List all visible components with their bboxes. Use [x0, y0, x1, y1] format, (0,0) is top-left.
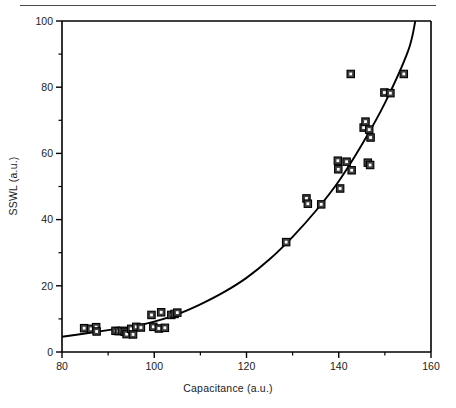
- marker-inner-square: [125, 333, 128, 336]
- marker-inner-square: [150, 314, 153, 317]
- data-point: [365, 126, 372, 133]
- marker-inner-square: [320, 203, 323, 206]
- data-point: [347, 70, 354, 77]
- data-point: [161, 324, 168, 331]
- x-tick-label: 80: [56, 360, 68, 372]
- marker-inner-square: [383, 91, 386, 94]
- marker-inner-square: [389, 92, 392, 95]
- marker-inner-square: [337, 168, 340, 171]
- data-point: [93, 328, 100, 335]
- marker-inner-square: [362, 126, 365, 129]
- data-point: [400, 70, 407, 77]
- data-point: [282, 238, 289, 245]
- marker-inner-square: [83, 327, 86, 330]
- marker-inner-square: [285, 241, 288, 244]
- y-tick-label: 20: [41, 280, 53, 292]
- data-point: [387, 89, 394, 96]
- data-point: [174, 309, 181, 316]
- data-point: [129, 331, 136, 338]
- marker-inner-square: [350, 169, 353, 172]
- data-point: [304, 200, 311, 207]
- y-tick-label: 80: [41, 81, 53, 93]
- data-point: [362, 118, 369, 125]
- data-point: [157, 309, 164, 316]
- marker-inner-square: [152, 325, 155, 328]
- data-point: [366, 161, 373, 168]
- marker-inner-square: [345, 160, 348, 163]
- marker-inner-square: [339, 187, 342, 190]
- marker-inner-square: [160, 311, 163, 314]
- marker-inner-square: [157, 327, 160, 330]
- x-tick-label: 100: [145, 360, 163, 372]
- data-point: [343, 158, 350, 165]
- figure-container: 02040608010080100120140160 Capacitance (…: [0, 0, 456, 408]
- data-point: [137, 324, 144, 331]
- marker-inner-square: [364, 120, 367, 123]
- marker-inner-square: [336, 159, 339, 162]
- data-point: [334, 157, 341, 164]
- y-axis-title: SSWL (a.u.): [7, 126, 19, 246]
- y-tick-label: 40: [41, 213, 53, 225]
- x-axis-title: Capacitance (a.u.): [0, 382, 456, 394]
- data-point: [336, 185, 343, 192]
- x-tick-label: 160: [422, 360, 440, 372]
- marker-inner-square: [349, 73, 352, 76]
- marker-inner-square: [369, 136, 372, 139]
- y-tick-label: 100: [35, 15, 53, 27]
- data-point: [335, 166, 342, 173]
- marker-inner-square: [139, 326, 142, 329]
- x-tick-label: 120: [238, 360, 256, 372]
- marker-inner-square: [95, 330, 98, 333]
- data-point: [80, 324, 87, 331]
- data-point: [318, 201, 325, 208]
- data-point: [367, 134, 374, 141]
- marker-inner-square: [163, 326, 166, 329]
- marker-inner-square: [368, 128, 371, 131]
- marker-inner-square: [369, 164, 372, 167]
- fit-curve: [62, 21, 415, 337]
- marker-inner-square: [132, 333, 135, 336]
- x-tick-label: 140: [330, 360, 348, 372]
- scatter-plot: 02040608010080100120140160: [0, 0, 456, 408]
- data-point: [348, 167, 355, 174]
- marker-inner-square: [176, 311, 179, 314]
- y-tick-label: 60: [41, 147, 53, 159]
- y-tick-label: 0: [47, 346, 53, 358]
- marker-inner-square: [402, 73, 405, 76]
- marker-inner-square: [306, 202, 309, 205]
- data-point: [148, 311, 155, 318]
- marker-inner-square: [305, 197, 308, 200]
